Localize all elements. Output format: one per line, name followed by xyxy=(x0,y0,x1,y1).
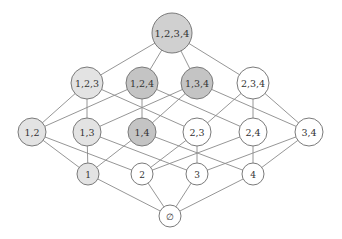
node-empty: ∅ xyxy=(159,205,181,227)
hasse-diagram: 1,2,3,41,2,31,2,41,3,42,3,41,21,31,42,32… xyxy=(0,0,342,239)
node-1: 1 xyxy=(77,163,99,185)
node-label: 1,3,4 xyxy=(185,78,209,89)
node-label: 2,3,4 xyxy=(241,78,265,89)
node-13: 1,3 xyxy=(73,118,101,146)
node-14: 1,4 xyxy=(128,118,156,146)
edge-1-empty xyxy=(88,174,170,216)
node-label: 3,4 xyxy=(301,127,316,138)
node-1234: 1,2,3,4 xyxy=(152,13,192,53)
node-label: 4 xyxy=(250,170,256,180)
node-label: 3 xyxy=(194,170,200,180)
node-label: 2 xyxy=(139,170,145,180)
node-label: 1,2 xyxy=(24,127,39,138)
node-34: 3,4 xyxy=(295,118,323,146)
edge-layer xyxy=(32,33,309,216)
node-label: 2,3 xyxy=(189,127,204,138)
node-3: 3 xyxy=(186,163,208,185)
node-124: 1,2,4 xyxy=(126,67,158,99)
node-label: 1,2,4 xyxy=(130,78,154,89)
node-24: 2,4 xyxy=(239,118,267,146)
node-label: ∅ xyxy=(166,212,174,222)
node-label: 1 xyxy=(85,170,91,180)
node-134: 1,3,4 xyxy=(181,67,213,99)
node-label: 1,3 xyxy=(79,127,94,138)
node-234: 2,3,4 xyxy=(237,67,269,99)
node-label: 1,2,3 xyxy=(75,78,99,89)
node-4: 4 xyxy=(242,163,264,185)
node-12: 1,2 xyxy=(18,118,46,146)
node-2: 2 xyxy=(131,163,153,185)
node-label: 1,2,3,4 xyxy=(155,28,190,39)
node-123: 1,2,3 xyxy=(71,67,103,99)
node-label: 2,4 xyxy=(245,127,260,138)
edge-4-empty xyxy=(170,174,253,216)
node-label: 1,4 xyxy=(134,127,149,138)
node-23: 2,3 xyxy=(183,118,211,146)
